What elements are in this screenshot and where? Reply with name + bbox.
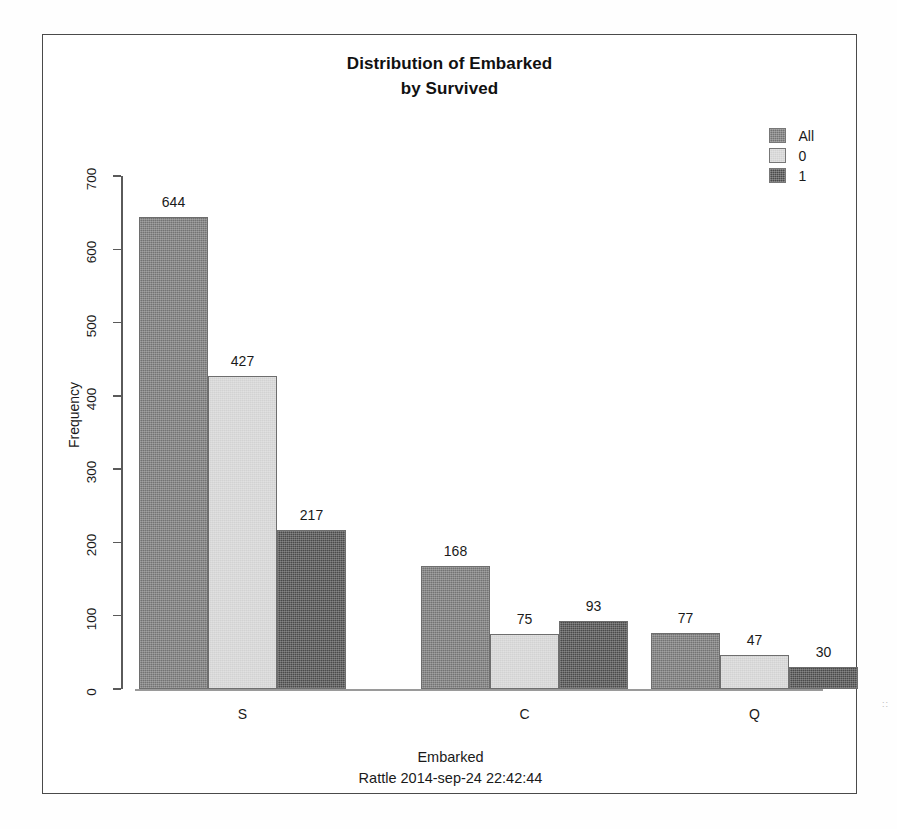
page-canvas: Distribution of Embarked by Survived All… bbox=[0, 0, 897, 829]
bar-value-label: 168 bbox=[421, 544, 490, 558]
x-axis-title: Embarked bbox=[43, 747, 858, 767]
bar-c-all bbox=[421, 566, 490, 689]
bar-value-label: 77 bbox=[651, 611, 720, 625]
x-axis-label-q: Q bbox=[651, 707, 858, 721]
bar-value-label: 427 bbox=[208, 354, 277, 368]
plot-area: Frequency 0100200300400500600700 6444272… bbox=[43, 35, 858, 795]
bars-layer: 6444272171687593774730 bbox=[43, 35, 858, 689]
scan-artifact-mark: :: bbox=[882, 700, 889, 709]
y-axis-tick-label-text: 0 bbox=[85, 688, 99, 696]
bar-s-0 bbox=[208, 376, 277, 689]
bar-c-0 bbox=[490, 634, 559, 689]
x-axis-label-s: S bbox=[139, 707, 346, 721]
bar-value-label: 93 bbox=[559, 599, 628, 613]
bar-value-label: 30 bbox=[789, 645, 858, 659]
bar-value-label: 47 bbox=[720, 633, 789, 647]
bar-q-0 bbox=[720, 655, 789, 689]
bar-s-1 bbox=[277, 530, 346, 689]
x-axis-baseline bbox=[135, 689, 823, 691]
footer-timestamp: Rattle 2014-sep-24 22:42:44 bbox=[43, 768, 858, 788]
x-axis-label-c: C bbox=[421, 707, 628, 721]
bar-q-1 bbox=[789, 667, 858, 689]
plot-frame: Distribution of Embarked by Survived All… bbox=[42, 34, 857, 794]
bar-c-1 bbox=[559, 621, 628, 689]
bar-q-all bbox=[651, 633, 720, 689]
bar-s-all bbox=[139, 217, 208, 689]
bar-value-label: 217 bbox=[277, 508, 346, 522]
bar-value-label: 644 bbox=[139, 195, 208, 209]
bar-value-label: 75 bbox=[490, 612, 559, 626]
